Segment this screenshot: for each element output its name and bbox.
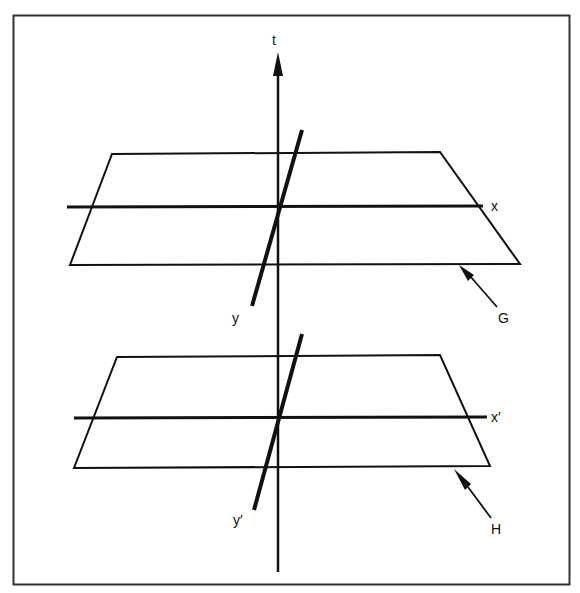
spacetime-diagram: t x y x′ y′ G H xyxy=(0,0,580,593)
t-axis xyxy=(273,52,283,572)
plane-g-outline xyxy=(70,152,520,265)
plane-h xyxy=(74,334,490,510)
label-g: G xyxy=(498,310,509,326)
g-pointer xyxy=(459,265,497,307)
plane-g xyxy=(67,130,520,306)
g-pointer-line xyxy=(470,276,497,307)
h-pointer-line xyxy=(468,487,491,518)
label-t: t xyxy=(272,32,276,48)
label-y: y xyxy=(232,310,239,326)
h-pointer xyxy=(454,469,491,518)
label-x: x xyxy=(491,198,498,214)
label-x-prime: x′ xyxy=(491,409,501,425)
label-y-prime: y′ xyxy=(233,512,243,528)
diagram-frame xyxy=(14,16,570,585)
label-h: H xyxy=(491,521,501,537)
x-axis xyxy=(67,206,483,207)
arrow-up-icon xyxy=(273,52,283,76)
